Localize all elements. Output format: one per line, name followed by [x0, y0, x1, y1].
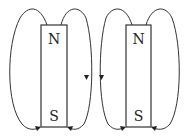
bar-magnet-left: N S [41, 25, 67, 127]
magnetic-field-diagram: N S N S [0, 0, 186, 140]
north-pole-label: N [48, 31, 60, 47]
south-pole-label: S [49, 108, 59, 124]
arrow-down-icon [84, 75, 89, 80]
bar-magnet-right: N S [126, 25, 151, 127]
diagram-canvas: N S N S [0, 0, 186, 140]
south-pole-label: S [134, 108, 144, 124]
north-pole-label: N [132, 31, 144, 47]
arrow-down-icon [99, 75, 104, 80]
arrow-icon [67, 126, 73, 131]
